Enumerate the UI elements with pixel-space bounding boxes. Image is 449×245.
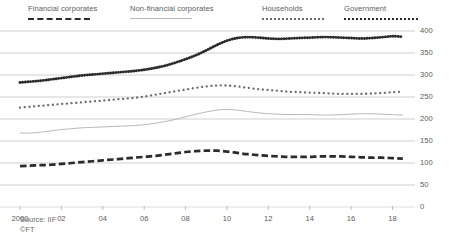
chart-footer: Source: IIF ©FT [20,215,56,234]
legend-swatch-solid-icon [130,18,192,19]
legend-label: Households [262,4,324,14]
series-line-non-financial-corporates [20,109,403,133]
legend-item-financial-corporates: Financial corporates [28,4,97,20]
legend-swatch-dotted-sparse-icon [262,18,324,20]
y-axis-tick-label: 100 [420,159,446,167]
series-line-financial-corporates [20,151,403,166]
legend-item-households: Households [262,4,324,20]
x-axis-tick-label: 08 [169,215,203,223]
y-axis-tick-label: 0 [420,203,446,211]
y-axis-tick-label: 300 [420,71,446,79]
legend-swatch-dashed-icon [28,18,90,20]
x-axis-tick-label: 14 [293,215,327,223]
x-axis-tick-label: 10 [210,215,244,223]
x-axis-tick-label: 18 [375,215,409,223]
y-axis-tick-label: 250 [420,93,446,101]
x-axis-tick-label: 16 [334,215,368,223]
x-axis-tick-label: 06 [127,215,161,223]
legend-label: Non-financial corporates [130,4,214,14]
series-line-government [20,36,403,82]
legend-label: Government [344,4,418,14]
legend-item-non-financial-corporates: Non-financial corporates [130,4,214,19]
y-axis-tick-label: 350 [420,49,446,57]
y-axis-tick-label: 400 [420,27,446,35]
source-note: Source: IIF [20,215,56,225]
chart-root: Financial corporates Non-financial corpo… [0,0,449,245]
legend-item-government: Government [344,4,418,20]
copyright-note: ©FT [20,225,56,235]
chart-legend: Financial corporates Non-financial corpo… [0,4,449,30]
legend-label: Financial corporates [28,4,97,14]
x-axis-tick-label: 12 [251,215,285,223]
y-axis-tick-label: 50 [420,181,446,189]
x-axis-tick-label: 04 [86,215,120,223]
series-line-households [20,85,403,107]
chart-plot-area [0,28,449,210]
legend-swatch-dotted-dense-icon [344,18,418,20]
y-axis-tick-label: 150 [420,137,446,145]
chart-svg [0,28,449,210]
y-axis-tick-label: 200 [420,115,446,123]
